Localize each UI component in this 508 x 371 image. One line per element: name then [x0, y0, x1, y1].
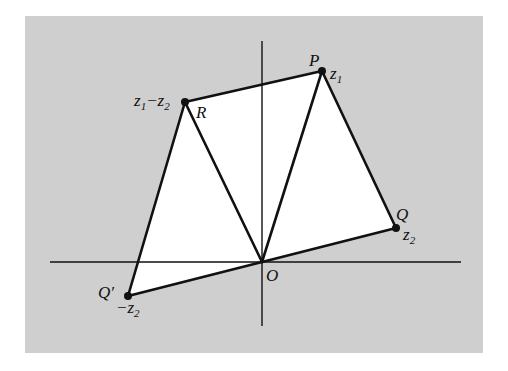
point-label-Q-prime: Q′ [98, 283, 114, 302]
complex-subtraction-diagram: P z1 R z1−z2 Q z2 Q′ −z2 O [0, 0, 508, 371]
point-label-P: P [308, 51, 319, 70]
point-dot-R [181, 98, 189, 106]
origin-label-O: O [266, 266, 278, 285]
point-dot-Q [392, 224, 400, 232]
point-label-Q: Q [396, 205, 408, 224]
point-label-R: R [195, 103, 207, 122]
